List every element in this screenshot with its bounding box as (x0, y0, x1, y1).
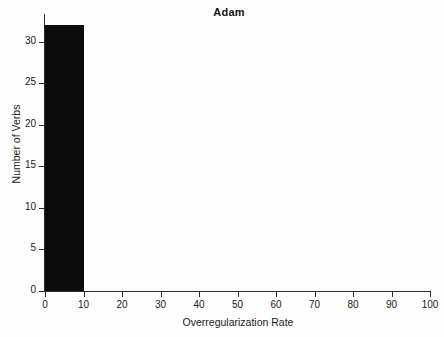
x-axis-tick-label: 50 (218, 299, 258, 310)
x-axis-tick (276, 292, 277, 297)
x-axis-tick (45, 292, 46, 297)
x-axis-tick (238, 292, 239, 297)
x-axis-tick-label: 90 (372, 299, 412, 310)
x-axis-tick (122, 292, 123, 297)
x-axis-tick-label: 0 (25, 299, 65, 310)
x-axis-tick-label: 80 (333, 299, 373, 310)
x-axis-tick (392, 292, 393, 297)
y-axis-tick (39, 291, 45, 292)
y-axis-label: Number of Verbs (10, 74, 22, 214)
x-axis-tick (430, 292, 431, 297)
x-axis-tick-label: 20 (102, 299, 142, 310)
x-axis-tick-label: 70 (295, 299, 335, 310)
y-axis-tick-label: 30 (10, 35, 36, 46)
x-axis-tick-label: 10 (64, 299, 104, 310)
x-axis-tick (84, 292, 85, 297)
x-axis-tick (315, 292, 316, 297)
x-axis-tick-label: 30 (141, 299, 181, 310)
chart-container: Adam 0102030405060708090100051015202530 … (0, 0, 444, 337)
x-axis-tick (353, 292, 354, 297)
x-axis-tick (199, 292, 200, 297)
plot-area (45, 14, 430, 291)
x-axis-tick-label: 60 (256, 299, 296, 310)
y-axis-tick-label: 5 (10, 242, 36, 253)
bar (45, 25, 84, 291)
x-axis-tick (161, 292, 162, 297)
x-axis-label: Overregularization Rate (45, 316, 431, 328)
x-axis-tick-label: 40 (179, 299, 219, 310)
x-axis-tick-label: 100 (410, 299, 444, 310)
y-axis-tick-label: 0 (10, 284, 36, 295)
